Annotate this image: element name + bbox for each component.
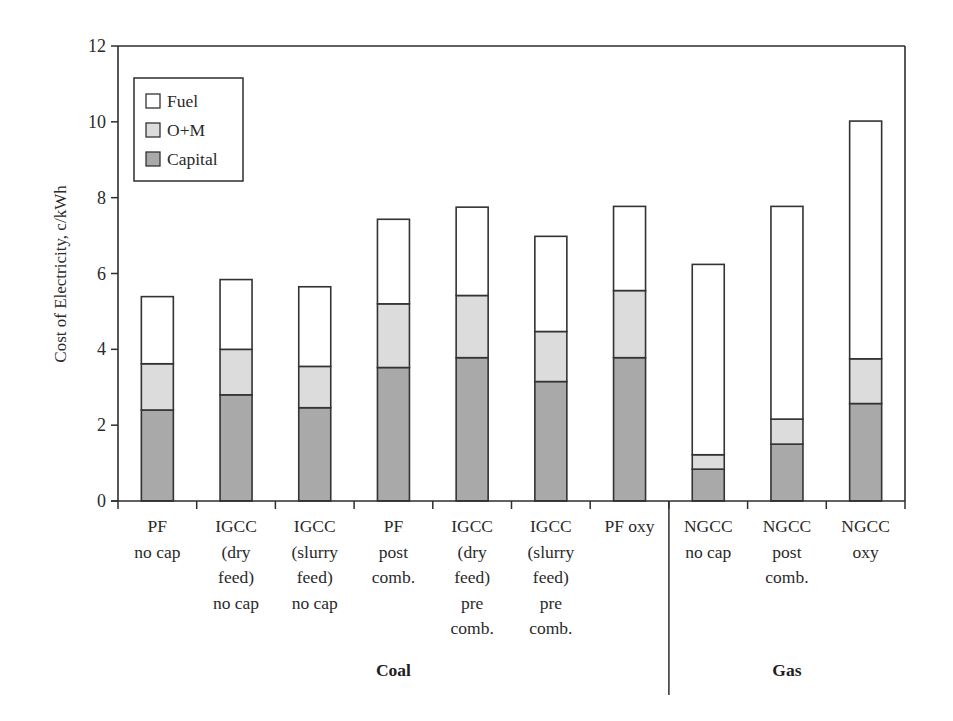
x-category-label-line: comb. [529, 618, 572, 638]
x-category-label-line: IGCC [451, 516, 493, 536]
x-category-label: NGCCpostcomb. [763, 516, 812, 587]
legend-label: Fuel [167, 91, 198, 111]
bar-segment-fuel [692, 264, 724, 454]
legend-label: O+M [167, 120, 206, 140]
bar-segment-capital [220, 395, 252, 501]
bar-segment-capital [377, 368, 409, 501]
y-axis: 024681012 [88, 36, 118, 511]
x-category-label: IGCC(slurryfeed)no cap [291, 516, 338, 613]
bar-segment-o-m [771, 419, 803, 444]
y-tick-label: 10 [88, 112, 106, 132]
bar-ngcc-post-comb [771, 206, 803, 501]
x-category-label-line: comb. [451, 618, 494, 638]
bar-segment-o-m [299, 366, 331, 407]
x-axis: PFno capIGCC(dryfeed)no capIGCC(slurryfe… [111, 501, 905, 638]
bar-segment-o-m [220, 349, 252, 395]
bar-segment-fuel [850, 121, 882, 359]
x-category-label-line: pre [540, 593, 563, 613]
x-category-label-line: pre [461, 593, 484, 613]
x-category-label: IGCC(dryfeed)precomb. [451, 516, 494, 638]
bar-ngcc-oxy [850, 121, 882, 501]
bar-segment-o-m [692, 455, 724, 469]
bar-ngcc-no-cap [692, 264, 724, 501]
x-category-label-line: (dry [458, 542, 487, 562]
y-axis-title: Cost of Electricity, c/kWh [51, 185, 70, 363]
x-category-label-line: IGCC [294, 516, 336, 536]
x-category-label-line: no cap [292, 593, 338, 613]
x-category-label-line: (slurry [291, 542, 338, 562]
y-tick-label: 12 [88, 36, 106, 56]
x-category-label-line: post [772, 542, 801, 562]
bar-segment-o-m [850, 359, 882, 404]
x-category-label-line: PF [384, 516, 404, 536]
x-category-label: NGCCoxy [841, 516, 890, 562]
x-category-label-line: no cap [134, 542, 180, 562]
bar-igcc-dry-feed-no-cap [220, 280, 252, 501]
bar-segment-fuel [377, 219, 409, 304]
bar-igcc-slurry-feed-pre-comb [535, 236, 567, 501]
bars [141, 121, 881, 501]
bar-segment-o-m [535, 332, 567, 382]
bar-segment-o-m [141, 364, 173, 410]
legend-swatch-o-m [146, 123, 160, 137]
y-tick-label: 8 [97, 188, 106, 208]
bar-segment-fuel [141, 297, 173, 364]
bar-segment-fuel [614, 206, 646, 290]
x-category-label: IGCC(slurryfeed)precomb. [528, 516, 575, 638]
bar-segment-fuel [456, 207, 488, 295]
bar-segment-capital [614, 358, 646, 501]
bar-segment-o-m [456, 295, 488, 357]
stacked-bar-chart: 024681012 PFno capIGCC(dryfeed)no capIGC… [0, 0, 953, 721]
x-category-label-line: NGCC [841, 516, 890, 536]
x-category-label-line: feed) [533, 567, 569, 587]
x-category-label-line: feed) [218, 567, 254, 587]
x-category-label-line: no cap [685, 542, 731, 562]
bar-segment-capital [692, 469, 724, 501]
x-category-label-line: NGCC [763, 516, 812, 536]
x-category-label-line: comb. [372, 567, 415, 587]
x-category-label-line: IGCC [530, 516, 572, 536]
bar-pf-oxy [614, 206, 646, 501]
legend: FuelO+MCapital [134, 78, 243, 181]
bar-segment-fuel [220, 280, 252, 350]
bar-segment-fuel [771, 206, 803, 419]
bar-igcc-slurry-feed-no-cap [299, 287, 331, 501]
x-category-label-line: PF [148, 516, 168, 536]
legend-swatch-fuel [146, 94, 160, 108]
x-category-label-line: post [379, 542, 408, 562]
x-category-label-line: IGCC [215, 516, 257, 536]
group-label-gas: Gas [772, 660, 801, 680]
x-category-label-line: PF oxy [605, 516, 655, 536]
bar-segment-capital [850, 404, 882, 501]
x-category-label-line: no cap [213, 593, 259, 613]
x-category-label-line: feed) [297, 567, 333, 587]
bar-segment-fuel [299, 287, 331, 367]
x-category-label: PFno cap [134, 516, 180, 562]
bar-igcc-dry-feed-pre-comb [456, 207, 488, 501]
bar-segment-capital [535, 382, 567, 501]
x-category-label-line: (dry [221, 542, 250, 562]
y-tick-label: 4 [97, 339, 106, 359]
x-category-label-line: NGCC [684, 516, 733, 536]
x-category-label: PFpostcomb. [372, 516, 415, 587]
bar-segment-capital [771, 444, 803, 501]
x-category-label: IGCC(dryfeed)no cap [213, 516, 259, 613]
category-groups: CoalGas [376, 501, 802, 695]
bar-segment-capital [141, 410, 173, 501]
bar-segment-fuel [535, 236, 567, 331]
bar-segment-o-m [377, 304, 409, 368]
x-category-label: NGCCno cap [684, 516, 733, 562]
bar-segment-capital [456, 358, 488, 501]
x-category-label-line: oxy [853, 542, 880, 562]
bar-segment-capital [299, 408, 331, 501]
bar-segment-o-m [614, 291, 646, 358]
legend-label: Capital [167, 149, 218, 169]
legend-swatch-capital [146, 152, 160, 166]
bar-pf-no-cap [141, 297, 173, 501]
group-label-coal: Coal [376, 660, 411, 680]
x-category-label-line: feed) [454, 567, 490, 587]
y-tick-label: 2 [97, 415, 106, 435]
y-tick-label: 6 [97, 264, 106, 284]
x-category-label-line: comb. [765, 567, 808, 587]
y-tick-label: 0 [97, 491, 106, 511]
